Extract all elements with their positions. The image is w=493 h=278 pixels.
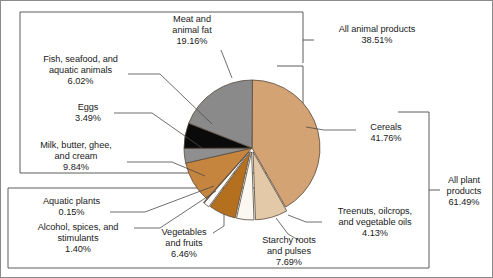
pie-chart-figure: Meat and animal fat 19.16% Fish, seafood… [0,0,493,278]
label-aquatic-plants: Aquatic plants 0.15% [30,196,113,218]
label-fish-seafood-aquatic-animals: Fish, seafood, and aquatic animals 6.02% [28,54,133,88]
label-meat-and-animal-fat: Meat and animal fat 19.16% [152,14,232,48]
label-treenuts-oilcrops-vegetable-oils: Treenuts, oilcrops, and vegetable oils 4… [320,206,430,240]
leader-alcohol [134,191,216,228]
label-cereals: Cereals 41.76% [352,122,420,144]
leader-meat [221,50,232,78]
label-milk-butter-ghee-cream: Milk, butter, ghee, and cream 9.84% [22,140,130,174]
label-eggs: Eggs 3.49% [58,102,118,124]
leader-treenuts [288,215,322,222]
label-all-plant-products: All plant products 61.49% [438,175,490,209]
label-alcohol-spices-stimulants: Alcohol, spices, and stimulants 1.40% [18,222,138,256]
label-all-animal-products: All animal products 38.51% [314,24,440,46]
label-starchy-roots-and-pulses: Starchy roots and pulses 7.69% [248,235,330,269]
label-vegetables-and-fruits: Vegetables and fruits 6.46% [148,227,220,261]
